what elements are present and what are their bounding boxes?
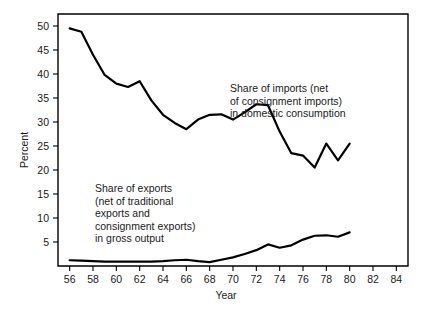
y-tick-label: 45 — [37, 44, 49, 56]
x-tick-label: 74 — [274, 273, 286, 285]
x-tick-label: 72 — [250, 273, 262, 285]
annotation-line: in domestic consumption — [230, 107, 346, 119]
x-tick-label: 68 — [204, 273, 216, 285]
y-tick-label: 10 — [37, 212, 49, 224]
x-tick-label: 58 — [87, 273, 99, 285]
x-tick-label: 80 — [344, 273, 356, 285]
annotation-line: in gross output — [95, 232, 164, 244]
y-tick-label: 30 — [37, 116, 49, 128]
y-axis-tick-labels: 5101520253035404550 — [37, 20, 49, 248]
x-axis-ticks — [70, 266, 397, 271]
x-tick-label: 66 — [180, 273, 192, 285]
annotation-line: consignment exports) — [95, 220, 195, 232]
x-tick-label: 60 — [110, 273, 122, 285]
x-axis-title: Year — [215, 289, 237, 301]
y-tick-label: 40 — [37, 68, 49, 80]
x-tick-label: 84 — [390, 273, 402, 285]
x-tick-label: 64 — [157, 273, 169, 285]
chart-annotations: Share of imports (netof consignment impo… — [95, 82, 346, 244]
y-tick-label: 50 — [37, 20, 49, 32]
y-tick-label: 35 — [37, 92, 49, 104]
x-tick-label: 62 — [134, 273, 146, 285]
y-tick-label: 15 — [37, 188, 49, 200]
x-tick-label: 70 — [227, 273, 239, 285]
chart-canvas: 5101520253035404550 56586062646668707274… — [0, 0, 428, 319]
imports-annotation: Share of imports (netof consignment impo… — [230, 82, 346, 119]
y-tick-label: 25 — [37, 140, 49, 152]
x-tick-label: 78 — [320, 273, 332, 285]
y-axis-ticks — [53, 26, 58, 242]
x-tick-label: 82 — [367, 273, 379, 285]
x-tick-label: 56 — [64, 273, 76, 285]
exports-annotation: Share of exports(net of traditionalexpor… — [95, 182, 195, 244]
annotation-line: exports and — [95, 207, 150, 219]
annotation-line: Share of exports — [95, 182, 172, 194]
annotation-line: of consignment imports) — [230, 95, 342, 107]
x-tick-label: 76 — [297, 273, 309, 285]
y-tick-label: 5 — [43, 236, 49, 248]
y-axis-title: Percent — [18, 132, 30, 168]
annotation-line: Share of imports (net — [230, 82, 328, 94]
x-axis-tick-labels: 565860626466687072747678808284 — [64, 273, 403, 285]
annotation-line: (net of traditional — [95, 195, 173, 207]
y-tick-label: 20 — [37, 164, 49, 176]
chart-figure: 5101520253035404550 56586062646668707274… — [0, 0, 428, 319]
